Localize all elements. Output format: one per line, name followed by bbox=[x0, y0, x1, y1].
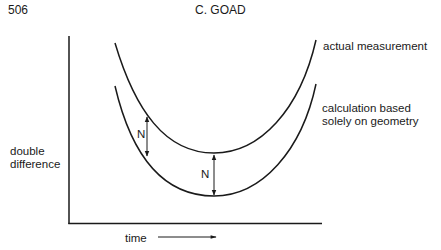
offset-label-center: N bbox=[201, 168, 209, 181]
offset-label-left: N bbox=[137, 128, 145, 141]
diagram-canvas bbox=[0, 0, 441, 250]
axes bbox=[68, 36, 322, 224]
